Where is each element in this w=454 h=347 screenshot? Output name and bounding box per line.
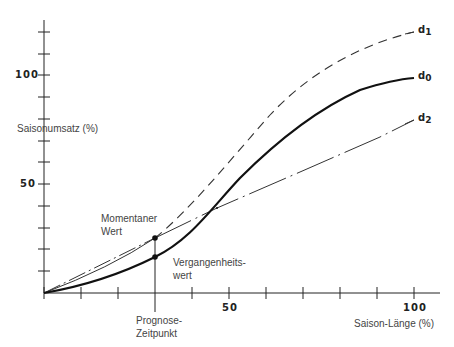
annotation-prognose-line2: Zeitpunkt xyxy=(136,327,182,340)
series-label-d1: d1 xyxy=(418,24,431,37)
series-label-d0: d0 xyxy=(418,70,431,83)
annotation-prognose-line1: Prognose- xyxy=(136,314,182,327)
series-label-d2: d2 xyxy=(418,112,431,125)
vergangenheitswert-marker xyxy=(152,254,158,260)
d1-tail xyxy=(405,32,414,34)
annotation-momentaner-wert: Momentaner Wert xyxy=(101,212,157,238)
annotation-prognose-zeitpunkt: Prognose- Zeitpunkt xyxy=(136,314,182,340)
y-axis xyxy=(38,20,50,293)
series-label-d0-sub: 0 xyxy=(425,73,431,83)
annotation-vergangenheit-line1: Vergangenheits- xyxy=(173,256,246,269)
d0-d2-intersection xyxy=(216,207,218,209)
series-d1-line xyxy=(155,32,414,238)
chart-canvas xyxy=(0,0,454,347)
annotation-vergangenheit-line2: wert xyxy=(173,269,246,282)
x-axis xyxy=(44,287,440,299)
x-tick-label-100: 100 xyxy=(403,302,427,313)
annotation-momentaner-line2: Wert xyxy=(101,225,157,238)
series-label-d1-sub: 1 xyxy=(425,27,431,37)
d2-tail xyxy=(405,120,414,124)
x-axis-label: Saison-Länge (%) xyxy=(354,317,434,330)
series-label-d2-sub: 2 xyxy=(425,115,431,125)
annotation-momentaner-line1: Momentaner xyxy=(101,212,157,225)
x-tick-label-50: 50 xyxy=(222,302,238,313)
y-tick-label-50: 50 xyxy=(20,178,36,189)
y-axis-label: Saisonumsatz (%) xyxy=(17,122,98,135)
y-tick-label-100: 100 xyxy=(15,69,39,80)
annotation-vergangenheitswert: Vergangenheits- wert xyxy=(173,256,246,282)
